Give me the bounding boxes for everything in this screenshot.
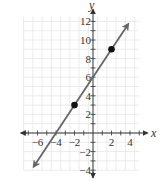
y-tick-label: −2 (79, 146, 91, 158)
y-tick-label: 8 (86, 53, 92, 65)
y-tick-label: 4 (86, 90, 92, 102)
y-axis-label: y (88, 0, 95, 12)
x-tick-label: −6 (32, 136, 44, 148)
y-tick-label: −4 (79, 164, 91, 176)
coordinate-plane: −6−4−22412108642−2−4 x y (0, 0, 160, 181)
y-tick-label: 12 (80, 15, 91, 27)
data-point (108, 46, 115, 53)
x-tick-label: 4 (127, 136, 133, 148)
x-axis-label: x (150, 126, 157, 140)
x-tick-label: 2 (109, 136, 115, 148)
y-tick-label: 10 (80, 34, 92, 46)
y-tick-label: 2 (86, 108, 92, 120)
data-point (71, 102, 78, 109)
